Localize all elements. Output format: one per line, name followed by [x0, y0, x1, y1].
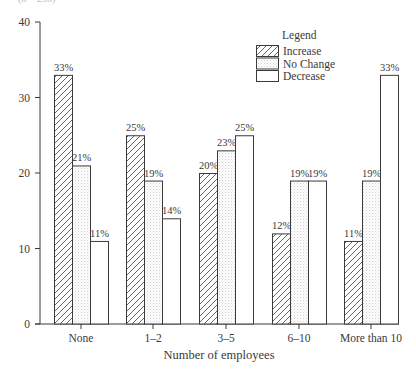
bar-group: 11%19%33% — [344, 62, 399, 324]
bar-value-label: 21% — [72, 152, 92, 163]
bar-value-label: 11% — [90, 228, 109, 239]
bar-no-change — [291, 181, 309, 324]
bar-decrease — [91, 241, 109, 324]
bar-value-label: 19% — [308, 168, 328, 179]
bar-value-label: 19% — [290, 168, 310, 179]
legend-label: Increase — [283, 45, 321, 57]
bar-group: 33%21%11% — [54, 62, 109, 324]
bar-decrease — [163, 219, 181, 324]
bar-no-change — [218, 151, 236, 324]
x-tick-label: None — [69, 332, 94, 344]
bar-value-label: 12% — [272, 220, 292, 231]
x-tick-label: 1–2 — [144, 332, 162, 344]
bar-increase — [345, 241, 363, 324]
x-axis-title: Number of employees — [163, 348, 274, 362]
y-tick-label: 40 — [19, 16, 31, 28]
bar-value-label: 20% — [199, 160, 219, 171]
legend-label: No Change — [283, 58, 335, 71]
bar-value-label: 25% — [235, 122, 255, 133]
bar-value-label: 11% — [344, 228, 363, 239]
x-tick-label: 3–5 — [217, 332, 235, 344]
bar-increase — [200, 174, 218, 325]
bar-decrease — [381, 75, 399, 324]
bar-value-label: 33% — [54, 62, 74, 73]
legend: LegendIncreaseNo ChangeDecrease — [257, 29, 336, 82]
legend-label: Decrease — [283, 70, 325, 82]
legend-swatch-increase — [257, 46, 279, 57]
bars: 33%21%11%25%19%14%20%23%25%12%19%19%11%1… — [54, 62, 400, 324]
bar-group: 20%23%25% — [199, 122, 255, 324]
bar-value-label: 33% — [380, 62, 400, 73]
legend-swatch-decrease — [257, 71, 279, 82]
bar-no-change — [145, 181, 163, 324]
legend-swatch-no-change — [257, 58, 279, 69]
bar-group: 25%19%14% — [126, 122, 182, 324]
y-tick-label: 20 — [19, 167, 31, 179]
bar-decrease — [236, 136, 254, 324]
x-tick-label: 6–10 — [288, 332, 311, 344]
legend-title: Legend — [282, 29, 317, 42]
bar-value-label: 19% — [144, 168, 164, 179]
y-tick-label: 0 — [24, 318, 30, 330]
x-axis: None1–23–56–10More than 10 — [35, 324, 402, 344]
bar-value-label: 25% — [126, 122, 146, 133]
bar-increase — [273, 234, 291, 324]
y-tick-label: 10 — [19, 243, 31, 255]
bar-no-change — [73, 166, 91, 324]
y-tick-label: 30 — [19, 92, 31, 104]
bar-value-label: 14% — [162, 205, 182, 216]
bar-increase — [55, 75, 73, 324]
bar-increase — [127, 136, 145, 324]
bar-value-label: 23% — [217, 137, 237, 148]
bar-no-change — [363, 181, 381, 324]
bar-value-label: 19% — [362, 168, 382, 179]
x-tick-label: More than 10 — [340, 332, 402, 344]
bar-decrease — [309, 181, 327, 324]
bar-group: 12%19%19% — [272, 168, 328, 324]
grouped-bar-chart: 010203040 None1–23–56–10More than 10 33%… — [0, 0, 416, 375]
y-axis: 010203040 — [19, 16, 41, 330]
